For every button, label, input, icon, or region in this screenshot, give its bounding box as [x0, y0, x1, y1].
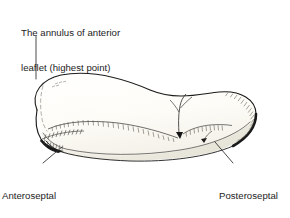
label-anteroseptal-commissure: Anteroseptal commissure (lowest point) [2, 167, 59, 218]
label-annulus-line-1: The annulus of anterior [21, 27, 120, 39]
label-annulus-of-anterior-leaflet: The annulus of anterior leaflet (highest… [21, 4, 120, 85]
valve-annulus-body [34, 73, 256, 161]
label-posteroseptal-line-1: Posteroseptal [219, 190, 278, 202]
label-anteroseptal-line-1: Anteroseptal [2, 190, 59, 202]
label-posteroseptal-commissure: Posteroseptal commissure [219, 167, 278, 218]
label-annulus-line-2: leaflet (highest point) [21, 62, 120, 74]
